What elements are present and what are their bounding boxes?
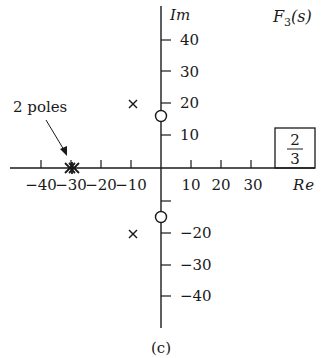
zero-marker-upper <box>156 111 167 122</box>
x-tick-label: −30 <box>55 176 87 194</box>
real-axis-label: Re <box>292 176 315 194</box>
zero-marker-lower <box>156 212 167 223</box>
x-tick-label: −20 <box>85 176 117 194</box>
annotation-arrow-shaft <box>46 120 64 150</box>
y-tick-label: −40 <box>180 287 212 305</box>
gain-denominator: 3 <box>290 150 300 168</box>
gain-box: 2 3 <box>275 128 315 168</box>
y-tick-label: −30 <box>180 256 212 274</box>
gain-numerator: 2 <box>290 131 300 149</box>
x-tick-label: −40 <box>25 176 57 194</box>
x-tick-label: 20 <box>211 176 230 194</box>
function-label: F3(s) <box>272 7 312 29</box>
x-tick-label: 10 <box>181 176 200 194</box>
annotation-arrowhead-icon <box>60 146 67 156</box>
imaginary-axis-label: Im <box>169 6 190 24</box>
y-tick-label: −20 <box>180 224 212 242</box>
y-tick-label: 20 <box>180 94 199 112</box>
pole-zero-plot: −40 −30 −20 −10 10 20 30 40 30 20 10 −20… <box>0 0 322 358</box>
figure-caption: (c) <box>151 339 171 357</box>
pole-marker-lower <box>129 230 137 238</box>
x-tick-label: 30 <box>243 176 262 194</box>
y-tick-label: 10 <box>180 126 199 144</box>
y-tick-label: 30 <box>180 63 199 81</box>
y-tick-label: 40 <box>180 31 199 49</box>
double-pole-annotation: 2 poles <box>13 98 67 116</box>
pole-marker-upper <box>129 100 137 108</box>
x-tick-label: −10 <box>115 176 147 194</box>
